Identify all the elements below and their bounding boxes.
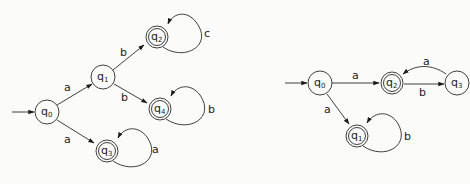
- state-q4-left-accepting: q4: [149, 98, 171, 120]
- edge-label-q2-q3: b: [419, 86, 426, 99]
- edge-label-q0-q2: a: [352, 69, 359, 82]
- state-q0-left: q0: [35, 100, 59, 124]
- state-q1-right-accepting: q1: [346, 125, 368, 147]
- state-q2-left-accepting: q2: [146, 26, 168, 48]
- state-q3-left-accepting: q3: [96, 140, 118, 162]
- automata-canvas: a a b b c b a q0 q1 q2: [0, 0, 470, 184]
- edge-q1-q2: [113, 45, 144, 70]
- state-q0-right: q0: [308, 71, 332, 95]
- edge-label-q0-q1: a: [324, 103, 331, 116]
- edge-q1-q4: [114, 84, 147, 103]
- loop-q2: [163, 14, 202, 52]
- loop-label-q2: c: [204, 27, 210, 40]
- edge-label-q1-q2: b: [120, 46, 127, 59]
- loop-q1: [363, 114, 401, 152]
- right-automaton: a a b a b q0 q2 q3 q1: [285, 55, 469, 152]
- left-automaton: a a b b c b a q0 q1 q2: [12, 14, 215, 167]
- loop-label-q1: b: [404, 130, 411, 143]
- edge-label-q3-q2: a: [423, 55, 430, 68]
- edge-q0-q1: [57, 84, 92, 105]
- edge-label-q0-q1: a: [64, 81, 71, 94]
- edge-label-q1-q4: b: [121, 91, 128, 104]
- edge-q0-q3: [57, 120, 94, 143]
- state-q1-left: q1: [91, 65, 115, 89]
- state-q3-right: q3: [445, 71, 469, 95]
- edge-label-q0-q3: a: [64, 133, 71, 146]
- loop-label-q3: a: [152, 143, 159, 156]
- loop-label-q4: b: [208, 103, 215, 116]
- loop-q3: [113, 129, 152, 167]
- loop-q4: [166, 87, 205, 125]
- state-q2-right-accepting: q2: [381, 72, 403, 94]
